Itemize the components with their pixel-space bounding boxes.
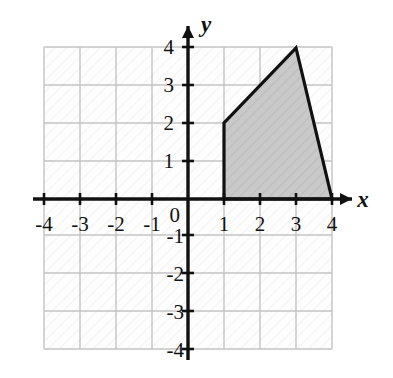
y-tick-label: -4 [167, 338, 185, 362]
y-tick-label: 4 [164, 35, 175, 59]
coordinate-plane-figure: -4 -3 -2 -1 1 2 3 4 4 3 2 1 -1 -2 -3 -4 … [0, 0, 393, 378]
y-tick-label: -3 [167, 300, 185, 324]
x-tick-label: 3 [291, 212, 302, 236]
x-tick-label: 4 [327, 212, 338, 236]
origin-label: 0 [170, 203, 181, 227]
y-tick-label: -1 [167, 224, 185, 248]
x-tick-label: -2 [107, 212, 125, 236]
coordinate-plane-svg: -4 -3 -2 -1 1 2 3 4 4 3 2 1 -1 -2 -3 -4 … [0, 0, 393, 378]
x-tick-label: -4 [35, 212, 53, 236]
x-axis-label: x [356, 187, 369, 212]
x-tick-label: 1 [219, 212, 230, 236]
y-tick-label: 2 [164, 111, 175, 135]
y-tick-label: 1 [164, 149, 175, 173]
x-tick-label: 2 [255, 212, 266, 236]
x-tick-label: -1 [143, 212, 161, 236]
y-tick-label: 3 [164, 73, 175, 97]
y-tick-label: -2 [167, 262, 185, 286]
x-tick-label: -3 [71, 212, 89, 236]
y-axis-label: y [198, 12, 212, 37]
